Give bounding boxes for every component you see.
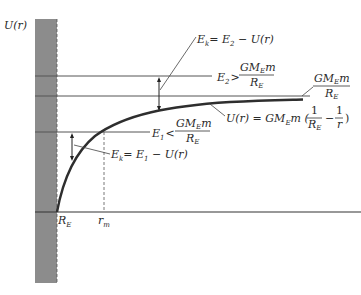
label-curve-close: ) (345, 112, 349, 125)
label-curve-f1-num: 1 (311, 104, 318, 117)
asymptote-leader (302, 87, 313, 96)
label-e2: E2> (216, 71, 240, 86)
y-axis-label: U(r) (4, 19, 27, 32)
label-e2-num: GMEm (240, 61, 276, 75)
tick-re: RE (57, 214, 71, 229)
tick-rm: rm (98, 214, 110, 229)
label-e1-den: RE (185, 132, 199, 146)
earth-surface-bar (35, 19, 57, 283)
ek1-arrow-head-up (70, 133, 74, 138)
label-curve-minus: − (325, 112, 334, 125)
label-curve-f2-num: 1 (336, 104, 343, 117)
label-asymptote-num: GMEm (314, 72, 350, 86)
label-curve-formula: U(r) = GMEm ( (226, 112, 309, 127)
label-ek-e1: Ek= E1 − U(r) (110, 148, 188, 163)
label-asymptote-den: RE (324, 87, 338, 101)
label-e1-num: GMEm (176, 117, 212, 131)
ek2-arrow-head-up (157, 77, 161, 82)
label-curve-f2-den: r (337, 118, 343, 131)
ek2-leader (160, 37, 196, 90)
label-e1: E1< (151, 127, 175, 142)
curve-leader (210, 104, 225, 116)
ek1-arrow-head-down (70, 156, 74, 161)
potential-energy-diagram: U(r) RE rm Ek= E2 − U(r) E2> GMEm RE GME… (0, 0, 361, 295)
label-curve-f1-den: RE (307, 118, 321, 132)
label-ek-e2: Ek= E2 − U(r) (196, 33, 274, 48)
label-e2-den: RE (249, 76, 263, 90)
